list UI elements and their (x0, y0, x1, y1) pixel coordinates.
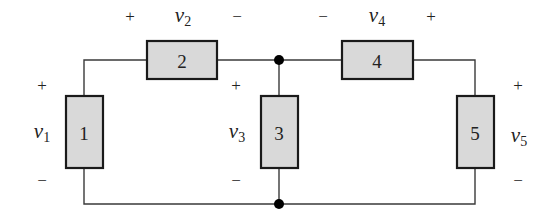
v4-minus-sign: − (318, 8, 328, 25)
wire-left-top (84, 60, 147, 96)
v3-minus-sign: − (231, 172, 241, 189)
v5-minus-sign: − (513, 172, 523, 189)
v4-plus-sign: + (426, 8, 436, 25)
v1-label: v1 (34, 121, 50, 145)
bottom-center-node (274, 199, 284, 209)
element-2-label: 2 (177, 52, 187, 71)
v1-plus-sign: + (37, 77, 47, 94)
v3-plus-sign: + (231, 77, 241, 94)
element-5-label: 5 (470, 124, 480, 143)
circuit-diagram: 1 2 3 4 5 + v1 − + v2 − + v3 − − v4 + + … (0, 0, 558, 223)
v4-label: v4 (369, 5, 385, 29)
wire-right-top (413, 60, 475, 96)
element-1-label: 1 (79, 124, 89, 143)
v5-plus-sign: + (513, 77, 523, 94)
element-4-label: 4 (372, 52, 382, 71)
v2-plus-sign: + (125, 8, 135, 25)
element-3-label: 3 (274, 124, 284, 143)
v2-label: v2 (175, 5, 191, 29)
v2-minus-sign: − (232, 8, 242, 25)
top-center-node (274, 55, 284, 65)
circuit-svg (0, 0, 558, 223)
v1-minus-sign: − (37, 172, 47, 189)
v3-label: v3 (229, 121, 245, 145)
v5-label: v5 (511, 125, 527, 149)
